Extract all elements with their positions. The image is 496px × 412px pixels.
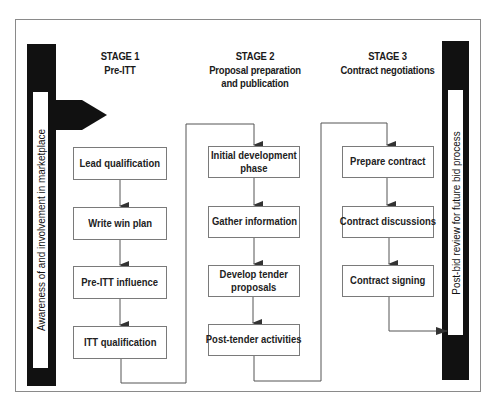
step-label: Develop tender proposals <box>220 268 288 295</box>
step-label: Contract signing <box>350 274 425 288</box>
step-contract-discussions: Contract discussions <box>342 206 434 238</box>
step-label: Pre-ITT influence <box>82 276 159 290</box>
step-label-line: phase <box>211 162 297 176</box>
step-label: Contract discussions <box>340 215 436 229</box>
step-label: Prepare contract <box>350 155 425 169</box>
step-itt-qualification: ITT qualification <box>73 326 167 359</box>
step-label: Write win plan <box>88 217 152 231</box>
step-write-win-plan: Write win plan <box>73 207 167 240</box>
step-label: ITT qualification <box>84 336 157 350</box>
step-prepare-contract: Prepare contract <box>342 146 434 178</box>
step-label-line: proposals <box>220 281 288 295</box>
step-initial-development-phase: Initial development phase <box>208 146 300 178</box>
step-label: Lead qualification <box>80 157 160 171</box>
step-lead-qualification: Lead qualification <box>73 147 167 180</box>
step-pre-itt-influence: Pre-ITT influence <box>73 266 167 299</box>
step-gather-information: Gather information <box>208 206 300 238</box>
step-label: Post-tender activities <box>206 333 302 347</box>
step-develop-tender-proposals: Develop tender proposals <box>208 265 300 297</box>
step-label: Gather information <box>211 215 296 229</box>
step-label: Initial development phase <box>211 149 297 176</box>
step-label-line: Develop tender <box>220 268 288 282</box>
step-contract-signing: Contract signing <box>342 265 434 297</box>
step-label-line: Initial development <box>211 149 297 163</box>
step-post-tender-activities: Post-tender activities <box>208 324 300 356</box>
